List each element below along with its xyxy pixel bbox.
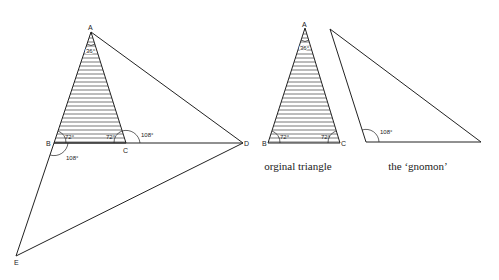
vertex-label-d: D: [244, 140, 249, 147]
segment-be: [16, 143, 54, 256]
vertex-label-orig-b: B: [262, 140, 267, 147]
angle-arc-gnomon: [362, 129, 379, 142]
vertex-label-orig-c: C: [341, 140, 346, 147]
gnomon-triangle: 108°: [330, 29, 481, 142]
angle-label-b: 72°: [65, 134, 75, 140]
golden-triangle-diagram: A B C D E 36° 36° 72° 72° 108° 108° A B …: [0, 0, 499, 280]
angle-label-c: 72°: [106, 134, 116, 140]
vertex-label-b: B: [46, 140, 51, 147]
angle-label-b-exterior: 108°: [66, 155, 79, 161]
vertex-label-e: E: [14, 259, 19, 266]
angle-arc-b-exterior: [50, 143, 68, 156]
segment-de: [16, 143, 243, 256]
angle-label-gnomon: 108°: [380, 129, 393, 135]
gnomon-outline: [330, 29, 481, 142]
angle-label-c-exterior: 108°: [141, 132, 154, 138]
angle-label-orig-b: 72°: [280, 134, 290, 140]
vertex-label-a: A: [88, 24, 93, 31]
vertex-label-orig-a: A: [302, 21, 307, 28]
caption-gnomon: the ‘gnomon’: [388, 160, 448, 172]
angle-label-orig-a: 36°: [300, 45, 310, 51]
vertex-label-c: C: [123, 147, 128, 154]
angle-label-a-text: 36°: [86, 48, 96, 54]
angle-label-orig-c: 72°: [321, 134, 331, 140]
left-construction: A B C D E 36° 36° 72° 72° 108° 108°: [14, 24, 249, 266]
caption-original-triangle: orginal triangle: [264, 160, 331, 172]
